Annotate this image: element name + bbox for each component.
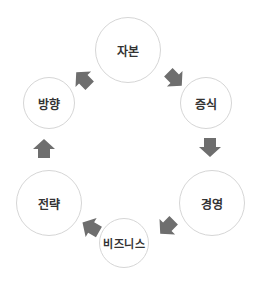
node-label: 자본 (117, 42, 140, 59)
node-growth: 증식 (180, 77, 232, 129)
node-label: 증식 (195, 95, 218, 112)
arrow-icon-growth-to-management (199, 138, 221, 157)
node-label: 경영 (201, 195, 224, 212)
node-capital: 자본 (95, 17, 161, 83)
node-label: 비즈니스 (103, 235, 145, 251)
node-business: 비즈니스 (99, 218, 149, 268)
node-label: 방향 (38, 95, 61, 112)
arrow-icon-direction-to-capital (68, 64, 97, 93)
arrow-icon-management-to-business (152, 213, 181, 242)
node-direction: 방향 (23, 77, 75, 129)
arrow-icon-strategy-to-direction (33, 139, 55, 158)
node-strategy: 전략 (16, 170, 82, 236)
node-label: 전략 (38, 195, 61, 212)
node-management: 경영 (179, 170, 245, 236)
